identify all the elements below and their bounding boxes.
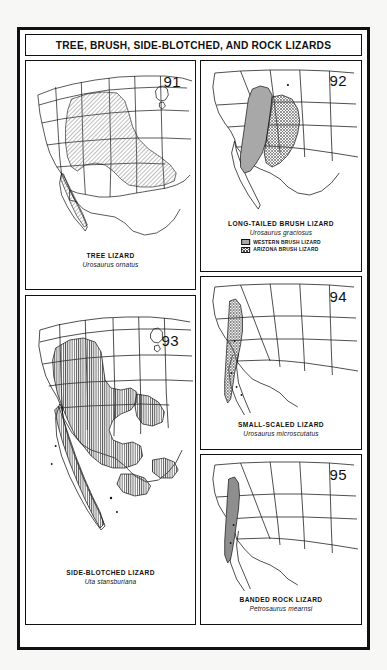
panel-number-95: 95 — [330, 466, 348, 483]
panel-number-94: 94 — [330, 288, 348, 305]
plate-title-bar: TREE, BRUSH, SIDE-BLOTCHED, AND ROCK LIZ… — [25, 34, 362, 56]
panel-95[interactable]: 95 BANDED ROCK LIZARD Petrosaurus mearns… — [200, 454, 362, 625]
panel-91[interactable]: 91 TREE LIZARD Urosaurus ornatus — [25, 60, 196, 290]
common-name-93: SIDE-BLOTCHED LIZARD — [26, 568, 195, 577]
legend-swatch-crosshatch-icon — [241, 247, 250, 253]
legend-swatch-solid-icon — [241, 239, 250, 245]
caption-95: BANDED ROCK LIZARD Petrosaurus mearnsi — [201, 595, 361, 613]
panel-92[interactable]: 92 LONG-TAILED BRUSH LIZARD Urosaurus gr… — [200, 60, 362, 272]
panel-94[interactable]: 94 SMALL-SCALED LIZARD Urosaurus microsc… — [200, 276, 362, 450]
legend-row-western: WESTERN BRUSH LIZARD — [241, 239, 321, 245]
legend-label-arizona: ARIZONA BRUSH LIZARD — [253, 247, 318, 252]
scientific-name-93: Uta stansburiana — [26, 577, 195, 586]
plate-title: TREE, BRUSH, SIDE-BLOTCHED, AND ROCK LIZ… — [56, 40, 331, 51]
scientific-name-92: Urosaurus graciosus — [201, 228, 361, 237]
plate-frame: TREE, BRUSH, SIDE-BLOTCHED, AND ROCK LIZ… — [17, 27, 370, 650]
common-name-91: TREE LIZARD — [26, 251, 195, 260]
caption-92: LONG-TAILED BRUSH LIZARD Urosaurus graci… — [201, 219, 361, 237]
panel-number-91: 91 — [164, 73, 182, 90]
legend-label-western: WESTERN BRUSH LIZARD — [253, 240, 321, 245]
common-name-94: SMALL-SCALED LIZARD — [201, 420, 361, 429]
caption-93: SIDE-BLOTCHED LIZARD Uta stansburiana — [26, 568, 195, 586]
scientific-name-95: Petrosaurus mearnsi — [201, 604, 361, 613]
scientific-name-91: Urosaurus ornatus — [26, 260, 195, 269]
legend-92: WESTERN BRUSH LIZARD ARIZONA BRUSH LIZAR… — [241, 239, 321, 253]
legend-row-arizona: ARIZONA BRUSH LIZARD — [241, 247, 321, 253]
caption-94: SMALL-SCALED LIZARD Urosaurus microscuta… — [201, 420, 361, 438]
caption-91: TREE LIZARD Urosaurus ornatus — [26, 251, 195, 269]
common-name-95: BANDED ROCK LIZARD — [201, 595, 361, 604]
panel-93[interactable]: 93 SIDE-BLOTCHED LIZARD Uta stansburiana — [25, 295, 196, 625]
panel-number-92: 92 — [330, 72, 348, 89]
scientific-name-94: Urosaurus microscutatus — [201, 429, 361, 438]
panel-number-93: 93 — [162, 332, 180, 349]
common-name-92: LONG-TAILED BRUSH LIZARD — [201, 219, 361, 228]
